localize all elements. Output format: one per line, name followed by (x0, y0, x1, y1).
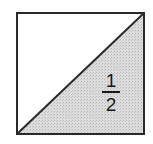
fraction-bar (102, 91, 120, 93)
fraction-label: 1 2 (98, 71, 124, 114)
square-diagram (0, 0, 153, 144)
numerator: 1 (98, 71, 124, 91)
denominator: 2 (98, 95, 124, 114)
